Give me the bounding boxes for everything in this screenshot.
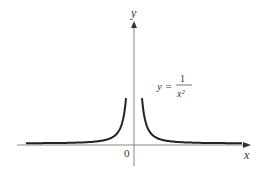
- origin-label: 0: [124, 147, 130, 159]
- curve-left-branch: [26, 98, 126, 143]
- x-axis-label: x: [243, 148, 250, 162]
- plot: y x 0 y = 1 x²: [0, 0, 267, 178]
- y-axis-arrow-icon: [131, 21, 137, 28]
- equation-denominator: x²: [176, 88, 185, 99]
- curve-right-branch: [142, 98, 242, 143]
- equation-numerator: 1: [180, 73, 185, 84]
- equation-lhs: y =: [156, 80, 172, 92]
- y-axis-label: y: [130, 6, 137, 20]
